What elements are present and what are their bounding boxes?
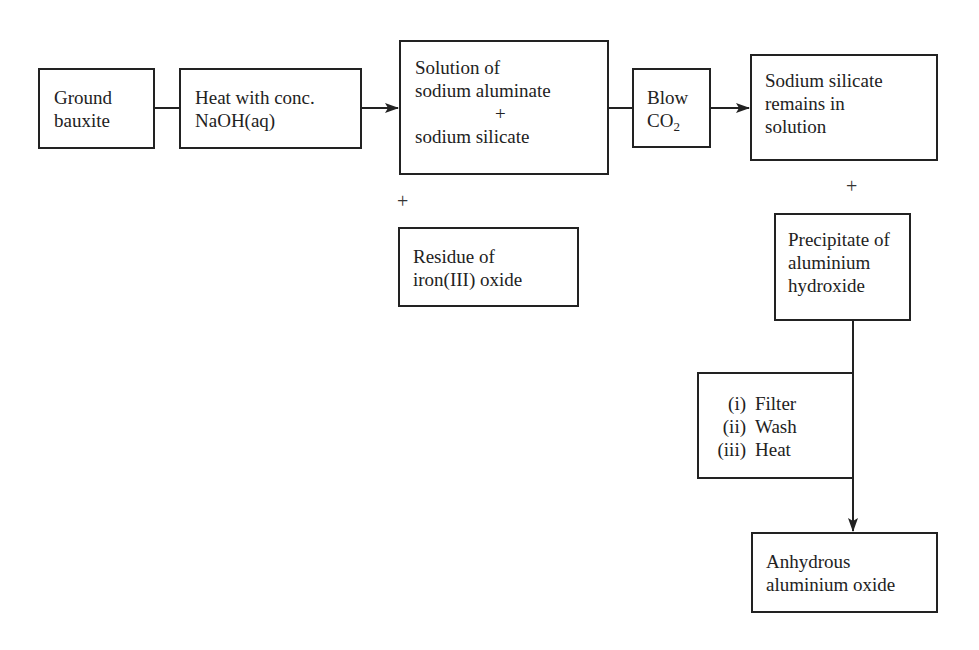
- formula-subscript: 2: [673, 119, 680, 134]
- node-heat-naoh: Heat with conc. NaOH(aq): [179, 68, 362, 149]
- step-label: Filter: [755, 392, 796, 415]
- node-label-line: sodium aluminate: [415, 79, 607, 102]
- node-blow-co2: Blow CO2: [632, 68, 711, 148]
- step-row: (iii) Heat: [699, 438, 852, 461]
- step-number: (ii): [699, 415, 755, 438]
- node-ground-bauxite: Ground bauxite: [38, 68, 155, 149]
- node-label-line: Anhydrous: [766, 550, 936, 573]
- node-sodium-silicate-remains: Sodium silicate remains in solution: [750, 54, 938, 161]
- node-label-line: iron(III) oxide: [413, 268, 577, 291]
- node-label-line: Sodium silicate: [765, 69, 936, 92]
- node-label-line: NaOH(aq): [195, 109, 360, 132]
- node-label-line: bauxite: [54, 109, 153, 132]
- node-solution: Solution of sodium aluminate + sodium si…: [399, 40, 609, 175]
- step-label: Heat: [755, 438, 791, 461]
- node-label-line: Residue of: [413, 245, 577, 268]
- step-number: (iii): [699, 438, 755, 461]
- node-label-line: aluminium: [788, 251, 909, 274]
- node-label-plus: +: [415, 102, 607, 125]
- step-number: (i): [699, 392, 755, 415]
- plus-sign-precipitate: +: [846, 176, 857, 196]
- node-process-steps: (i) Filter (ii) Wash (iii) Heat: [697, 372, 854, 479]
- node-label-line: sodium silicate: [415, 125, 607, 148]
- node-label-line: aluminium oxide: [766, 573, 936, 596]
- plus-sign-residue: +: [397, 191, 408, 211]
- node-label-line: CO2: [647, 109, 709, 132]
- node-label-line: Blow: [647, 86, 709, 109]
- node-label-line: remains in: [765, 92, 936, 115]
- node-label-line: Heat with conc.: [195, 86, 360, 109]
- node-label-line: solution: [765, 115, 936, 138]
- step-row: (ii) Wash: [699, 415, 852, 438]
- formula-main: CO: [647, 110, 673, 131]
- node-precipitate: Precipitate of aluminium hydroxide: [774, 213, 911, 321]
- step-row: (i) Filter: [699, 392, 852, 415]
- node-label-line: hydroxide: [788, 274, 909, 297]
- step-label: Wash: [755, 415, 797, 438]
- node-label-line: Solution of: [415, 56, 607, 79]
- node-label-line: Precipitate of: [788, 228, 909, 251]
- node-anhydrous-aluminium-oxide: Anhydrous aluminium oxide: [751, 532, 938, 613]
- node-residue: Residue of iron(III) oxide: [398, 227, 579, 307]
- node-label-line: Ground: [54, 86, 153, 109]
